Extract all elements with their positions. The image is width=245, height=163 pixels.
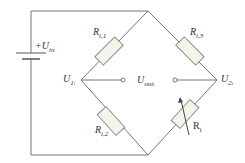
- r-i2-sub: i,2: [101, 130, 108, 138]
- r-i3-sub: i,3: [196, 32, 203, 40]
- resistor-r-i1: [95, 37, 123, 65]
- r-i-sub: i: [200, 126, 202, 134]
- r-i-main: R: [193, 120, 200, 131]
- label-u2: U2i: [221, 74, 233, 87]
- bridge-circuit: [0, 0, 245, 163]
- source-label: +Uin: [35, 41, 54, 54]
- label-r-i: Ri: [193, 121, 202, 134]
- arrowhead-icon: [178, 97, 183, 103]
- label-r-i1: Ri,1: [93, 27, 106, 40]
- r-i1-sub: i,1: [99, 32, 106, 40]
- uout-subsub: i: [153, 82, 154, 87]
- u2-subsub: i: [232, 81, 233, 86]
- label-r-i3: Ri,3: [190, 27, 203, 40]
- source-label-sub: in: [49, 46, 54, 54]
- label-uout: Uouti: [137, 75, 155, 88]
- uout-sub: out: [144, 80, 153, 88]
- source-label-main: +U: [35, 40, 49, 51]
- wire-bottom: [31, 59, 148, 155]
- label-u1: U1i: [63, 74, 75, 87]
- resistor-r-i3: [176, 37, 204, 65]
- label-r-i2: Ri,2: [95, 125, 108, 138]
- u1-subsub: i: [74, 81, 75, 86]
- output-terminal-right: [173, 78, 177, 82]
- output-terminal-left: [121, 78, 125, 82]
